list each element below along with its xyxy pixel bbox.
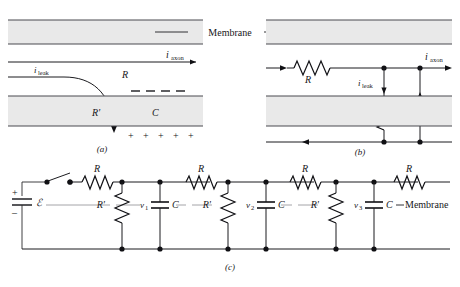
panel-c-bottom-rail: [22, 246, 450, 251]
panel-b-i-leak-subscript: leak: [362, 82, 374, 89]
panel-b-input-arrowhead: [280, 65, 287, 71]
circuit-figure-svg: i axon R i leak R' C: [0, 0, 460, 287]
axon-current-arrowhead: [190, 59, 196, 64]
panel-c-shunt-C-2: v 2 C: [246, 182, 285, 249]
panel-c-v3-subscript: 3: [359, 204, 362, 211]
panel-b-resistor-R-zigzag: [294, 61, 330, 75]
battery-minus-sign: –: [11, 207, 18, 218]
panel-c-v2-label: v: [246, 200, 250, 210]
panel-b-lower-membrane: [266, 96, 452, 126]
panel-c-shunt-Rprime-2: R': [202, 182, 235, 249]
panel-c-node-bottom-1: [119, 246, 124, 251]
panel-c-resistor-Rprime-3: [329, 193, 343, 223]
panel-c-shunt-Rprime-1: R': [96, 182, 129, 249]
panel-a-R-label: R: [121, 69, 128, 80]
panel-a-i-leak-subscript: leak: [38, 69, 50, 76]
leak-current-arrowhead: [111, 126, 117, 133]
panel-b-return-arrowhead: [302, 139, 309, 145]
panel-c-resistor-R-1: [82, 176, 113, 189]
switch-blade[interactable]: [48, 173, 70, 181]
panel-b-i-axon-label: i: [425, 51, 428, 62]
panel-b-node-bottom-left: [381, 139, 386, 144]
panel-c-Rprime-label-2: R': [202, 199, 212, 210]
panel-c-emf-label: ℰ: [36, 197, 43, 208]
plus-charge: +: [128, 130, 134, 141]
panel-c-C-label-2: C: [278, 199, 285, 210]
panel-c-Rprime-label-3: R': [310, 199, 320, 210]
panel-a: i axon R i leak R' C: [8, 20, 203, 154]
panel-b-node-bottom-right: [417, 139, 422, 144]
panel-b: R i axon i leak R' – + C: [266, 20, 452, 157]
panel-c-R-label-1: R: [93, 163, 100, 174]
panel-a-lower-membrane: [8, 96, 203, 126]
plus-charge: +: [143, 130, 149, 141]
membrane-band-lower-fill: [8, 96, 203, 126]
panel-b-R-label: R: [304, 74, 311, 85]
panel-b-iaxon-arrowhead: [445, 65, 452, 71]
panel-c-v2-subscript: 2: [251, 204, 254, 211]
panel-a-i-leak-label: i: [34, 65, 37, 75]
panel-b-i-axon-subscript: axon: [430, 56, 443, 63]
panel-c-node-bottom-6: [371, 246, 376, 251]
panel-c-R-label-3: R: [301, 163, 308, 174]
panel-a-positive-charges: + + + + +: [128, 130, 194, 141]
panel-c-node-bottom-3: [225, 246, 230, 251]
panel-c-R-label-2: R: [197, 163, 204, 174]
figure-root: i axon R i leak R' C: [0, 0, 460, 287]
panel-c-C-label-3: C: [386, 199, 393, 210]
panel-c-switch[interactable]: [22, 173, 73, 185]
panel-b-caption: (b): [355, 147, 366, 157]
panel-c-node-bottom-5: [333, 246, 338, 251]
panel-c-shunt-C-3: v 3 C: [354, 182, 393, 249]
panel-c-resistor-Rprime-2: [221, 193, 235, 223]
panel-c-top-rail: R R R R: [67, 163, 450, 189]
panel-a-caption: (a): [97, 144, 108, 154]
panel-c-v3-label: v: [354, 200, 358, 210]
panel-c-node-bottom-4: [263, 246, 268, 251]
membrane-band-upper-fill-b: [266, 20, 452, 44]
panel-c-caption: (c): [225, 262, 235, 272]
battery-plus-sign: +: [12, 187, 18, 198]
panel-c-C-label-1: C: [172, 199, 179, 210]
panel-c-R-label-4: R: [405, 163, 412, 174]
plus-charge: +: [158, 130, 164, 141]
panel-c: + – ℰ R: [11, 163, 450, 272]
panel-c-Rprime-label-1: R': [96, 199, 106, 210]
panel-b-bottom-rail: [266, 139, 452, 145]
panel-c-resistor-Rprime-1: [115, 193, 129, 223]
panel-a-Rprime-label: R': [91, 107, 101, 118]
panel-c-battery: + – ℰ: [11, 182, 43, 249]
panel-c-node-top-0: [67, 179, 72, 184]
panel-c-shunt-C-1: v 1 C: [140, 182, 179, 249]
membrane-label-top: Membrane: [208, 27, 252, 38]
panel-b-i-leak-label: i: [358, 78, 361, 88]
panel-a-C-label: C: [152, 107, 159, 118]
panel-c-membrane-label: Membrane: [405, 199, 449, 210]
plus-charge: +: [173, 130, 179, 141]
panel-b-upper-membrane: [266, 20, 452, 44]
panel-b-ileak-arrowhead: [381, 88, 386, 95]
panel-a-i-axon-subscript: axon: [171, 54, 184, 61]
membrane-band-lower-fill-b: [266, 96, 452, 126]
panel-c-shunt-Rprime-3: R': [310, 182, 343, 249]
panel-a-axon-current: i axon: [8, 49, 196, 65]
panel-c-v1-subscript: 1: [145, 204, 148, 211]
panel-a-i-axon-label: i: [166, 49, 169, 60]
panel-c-v1-label: v: [140, 200, 144, 210]
plus-charge: +: [188, 130, 194, 141]
panel-c-node-bottom-2: [157, 246, 162, 251]
